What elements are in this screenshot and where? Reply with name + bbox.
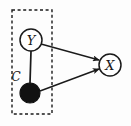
node-u-latent bbox=[20, 83, 40, 103]
graph-canvas: C Y X bbox=[0, 0, 131, 126]
node-y-label: Y bbox=[27, 33, 37, 48]
causal-graph-figure: C Y X bbox=[0, 0, 131, 126]
edge-u-to-x bbox=[40, 69, 99, 91]
node-x-label: X bbox=[104, 58, 115, 73]
plate-label-c: C bbox=[11, 70, 20, 84]
edge-y-to-u bbox=[30, 51, 31, 83]
edge-y-to-x bbox=[41, 44, 99, 60]
